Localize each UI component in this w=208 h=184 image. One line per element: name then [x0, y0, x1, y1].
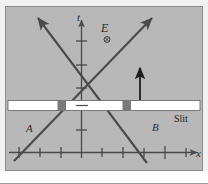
field-symbol-glyph — [104, 37, 110, 43]
barrier-bar — [8, 101, 200, 111]
slit-barrier — [8, 101, 200, 111]
physics-figure: t x E A B Slit — [0, 0, 208, 184]
figure-canvas — [0, 0, 208, 184]
slit-block-left — [58, 101, 67, 111]
slit-block-right — [123, 101, 132, 111]
bottom-strip — [0, 171, 208, 184]
plate-border — [6, 7, 203, 171]
worldline-a — [14, 18, 152, 161]
diagram-svg — [0, 0, 208, 184]
